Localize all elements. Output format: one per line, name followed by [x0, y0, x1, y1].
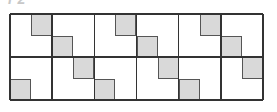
shaded-region	[52, 36, 73, 58]
shaded-region	[242, 57, 263, 79]
shaded-region	[200, 14, 221, 36]
shaded-region	[31, 14, 52, 36]
shaded-region	[73, 57, 94, 79]
grid-cell	[94, 14, 136, 57]
grid-cell	[221, 14, 263, 57]
figure-label: F2	[8, 0, 26, 7]
grid-cell	[221, 57, 263, 100]
grid-cell	[52, 57, 94, 100]
shaded-region	[221, 36, 242, 58]
grid-cell	[179, 14, 221, 57]
grid-cell	[52, 14, 94, 57]
shaded-region	[10, 79, 31, 101]
shaded-region	[137, 36, 158, 58]
tile-grid	[10, 14, 263, 100]
grid-cell	[10, 14, 52, 57]
grid-line-horizontal	[10, 99, 263, 101]
grid-cell	[137, 57, 179, 100]
grid-cell	[10, 57, 52, 100]
shaded-region	[115, 14, 136, 36]
grid-cell	[94, 57, 136, 100]
shaded-region	[158, 57, 179, 79]
shaded-region	[179, 79, 200, 101]
grid-cell	[137, 14, 179, 57]
grid-cell	[179, 57, 221, 100]
grid-line-horizontal	[10, 56, 263, 58]
grid-line-horizontal	[10, 13, 263, 15]
shaded-region	[94, 79, 115, 101]
